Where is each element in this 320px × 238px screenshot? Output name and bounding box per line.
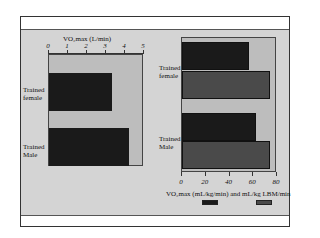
legend-swatch-lbm: [256, 200, 272, 205]
label-line: Trained: [23, 143, 45, 151]
bar-trained-male-series-1: [182, 113, 256, 141]
tick-mark: [143, 50, 144, 54]
legend-swatch-vo2max-mlkg: [202, 200, 218, 205]
tick-label: 2: [84, 42, 88, 50]
tick-mark: [205, 172, 206, 176]
left-category-female: Trained female: [23, 86, 45, 102]
bar-trained-female: [49, 73, 112, 111]
label-line: female: [159, 72, 181, 80]
tick-label: 5: [141, 42, 145, 50]
tick-mark: [229, 172, 230, 176]
tick-mark: [252, 172, 253, 176]
bar-trained-male: [49, 128, 129, 166]
tick-label: 40: [225, 178, 232, 186]
left-plot-area: [48, 54, 143, 166]
right-category-female: Trained female: [159, 64, 181, 80]
tick-label: 3: [103, 42, 107, 50]
tick-label: 0: [46, 42, 50, 50]
tick-label: 0: [179, 178, 183, 186]
bar-trained-female-series-2: [182, 71, 270, 99]
bar-trained-female-series-1: [182, 42, 249, 70]
right-axis-title: VO₂max (mL/kg/min) and mL/kg LBM/min: [166, 190, 291, 198]
right-plot-area: [181, 37, 276, 172]
label-line: Male: [159, 143, 181, 151]
tick-mark: [276, 172, 277, 176]
label-line: Trained: [23, 86, 45, 94]
right-category-male: Trained Male: [159, 135, 181, 151]
tick-label: 20: [201, 178, 208, 186]
tick-label: 1: [65, 42, 69, 50]
bar-trained-male-series-2: [182, 141, 270, 169]
label-line: female: [23, 94, 45, 102]
tick-label: 60: [249, 178, 256, 186]
label-line: Trained: [159, 64, 181, 72]
tick-mark: [181, 172, 182, 176]
figure-frame: VO₂max (L/min) 012345 Trained female Tra…: [20, 16, 290, 227]
label-line: Trained: [159, 135, 181, 143]
tick-label: 80: [273, 178, 280, 186]
left-category-male: Trained Male: [23, 143, 45, 159]
tick-label: 4: [122, 42, 126, 50]
figure-panel: VO₂max (L/min) 012345 Trained female Tra…: [21, 29, 289, 216]
label-line: Male: [23, 151, 45, 159]
